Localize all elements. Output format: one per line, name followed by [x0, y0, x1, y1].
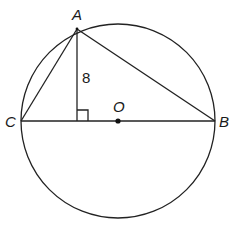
- label-c: C: [5, 113, 16, 130]
- segment-ac: [21, 29, 77, 121]
- label-o: O: [113, 98, 125, 115]
- right-angle-marker: [77, 110, 88, 121]
- label-b: B: [219, 113, 229, 130]
- vertex-a-point: [76, 28, 79, 31]
- altitude-length-label: 8: [82, 69, 90, 86]
- segment-ab: [77, 29, 215, 121]
- geometry-diagram: A C B O 8: [0, 0, 233, 226]
- center-point-o: [115, 118, 120, 123]
- label-a: A: [71, 6, 82, 23]
